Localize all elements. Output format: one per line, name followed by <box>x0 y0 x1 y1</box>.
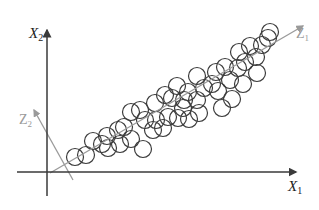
data-point <box>224 91 241 108</box>
z2-axis-label: Z2 <box>19 112 32 129</box>
pca-diagram: X2 X1 Z1 Z2 <box>0 0 319 210</box>
x1-axis-label: X1 <box>287 178 302 196</box>
data-point <box>181 111 198 128</box>
data-point <box>242 38 259 55</box>
data-point <box>231 44 248 61</box>
data-point <box>214 100 231 117</box>
data-point <box>135 141 152 158</box>
z1-axis-label: Z1 <box>296 26 309 43</box>
data-point <box>132 102 149 119</box>
data-point <box>262 24 279 41</box>
data-point <box>123 131 140 148</box>
data-point <box>67 149 84 166</box>
z1-axis <box>50 26 303 173</box>
data-point <box>249 65 266 82</box>
z2-axis <box>34 110 73 180</box>
data-point <box>191 105 208 122</box>
data-point <box>230 60 247 77</box>
x2-axis-label: X2 <box>28 25 43 43</box>
data-point <box>189 68 206 85</box>
